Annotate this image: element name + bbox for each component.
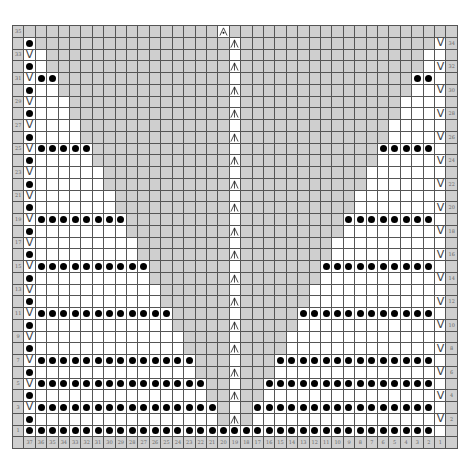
stitch-cell [264,226,275,238]
slip-stitch-v-icon: V [26,50,34,60]
purl-dot-icon [140,427,147,434]
row-label-left: 29 [13,97,24,109]
stitch-cell [355,226,366,238]
stitch-cell [207,97,218,109]
stitch-cell [412,238,423,250]
stitch-cell [104,50,115,62]
stitch-cell: V [24,191,35,203]
row-label-right: 14 [446,273,457,285]
stitch-cell [298,296,309,308]
stitch-cell [321,273,332,285]
purl-dot-icon [152,404,159,411]
stitch-cell [401,38,412,50]
stitch-cell [367,249,378,261]
stitch-cell [127,97,138,109]
purl-dot-icon [323,427,330,434]
column-label: 31 [93,437,104,449]
stitch-cell [116,61,127,73]
slip-stitch-v-icon: V [26,167,34,177]
purl-dot-icon [311,404,318,411]
stitch-cell [241,155,252,167]
column-label: 17 [253,437,264,449]
slip-stitch-v-icon: V [436,344,444,354]
purl-dot-icon [231,427,238,434]
purl-dot-icon [368,263,375,270]
purl-dot-icon [197,380,204,387]
stitch-cell [401,379,412,391]
stitch-cell [70,132,81,144]
stitch-cell [401,414,412,426]
purl-dot-icon [209,427,216,434]
stitch-cell [298,167,309,179]
stitch-cell [435,26,446,38]
stitch-cell [310,402,321,414]
stitch-cell [138,296,149,308]
central-double-decrease-icon [230,156,239,165]
stitch-cell [59,296,70,308]
stitch-cell [36,85,47,97]
stitch-cell [378,97,389,109]
stitch-cell [116,355,127,367]
stitch-cell [298,390,309,402]
stitch-cell [264,26,275,38]
stitch-cell [161,379,172,391]
stitch-cell [230,38,241,50]
purl-dot-icon [95,216,102,223]
stitch-cell [81,426,92,438]
stitch-cell [150,73,161,85]
stitch-cell [173,261,184,273]
stitch-cell [138,61,149,73]
stitch-cell [253,343,264,355]
purl-dot-icon [72,427,79,434]
stitch-cell [127,308,138,320]
stitch-cell [173,155,184,167]
stitch-cell [230,402,241,414]
stitch-cell [207,132,218,144]
stitch-cell: V [24,167,35,179]
row-label-left [13,132,24,144]
stitch-cell [36,426,47,438]
stitch-cell [378,332,389,344]
stitch-cell [230,73,241,85]
stitch-cell [127,402,138,414]
stitch-cell [241,332,252,344]
stitch-cell [150,202,161,214]
stitch-cell [218,414,229,426]
stitch-cell [138,249,149,261]
stitch-cell [138,273,149,285]
stitch-cell [70,238,81,250]
stitch-cell [367,155,378,167]
stitch-cell [70,179,81,191]
stitch-cell [93,367,104,379]
stitch-cell [196,226,207,238]
stitch-cell [287,355,298,367]
stitch-cell [218,144,229,156]
stitch-cell [218,226,229,238]
stitch-cell [81,320,92,332]
stitch-cell [332,155,343,167]
stitch-cell [321,38,332,50]
stitch-cell [367,390,378,402]
stitch-cell [150,414,161,426]
central-double-decrease-icon [230,133,239,142]
stitch-cell [230,238,241,250]
stitch-cell [116,26,127,38]
stitch-cell [93,390,104,402]
purl-dot-icon [414,75,421,82]
stitch-cell [138,308,149,320]
purl-dot-icon [277,380,284,387]
column-label: 10 [332,437,343,449]
stitch-cell [218,402,229,414]
stitch-cell [332,85,343,97]
stitch-cell [116,320,127,332]
stitch-cell [36,226,47,238]
stitch-cell [401,332,412,344]
stitch-cell [24,108,35,120]
purl-dot-icon [414,427,421,434]
stitch-cell [389,191,400,203]
purl-dot-icon [368,427,375,434]
stitch-cell [355,367,366,379]
stitch-cell [127,214,138,226]
stitch-cell [161,249,172,261]
purl-dot-icon [49,310,56,317]
